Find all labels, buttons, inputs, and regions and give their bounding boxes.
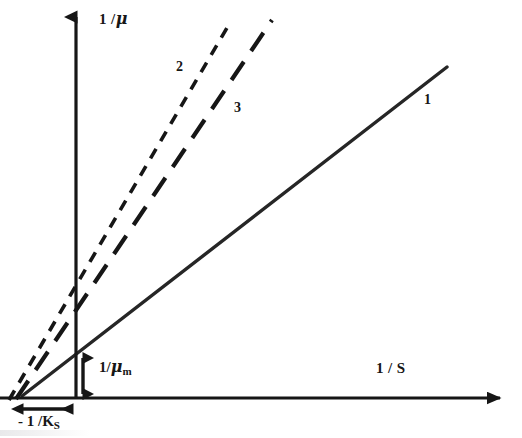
plot-canvas [0,0,522,438]
axes-group [0,17,500,398]
x-axis-label-text: 1 / S [376,360,406,376]
y-intercept-symbol: μ [111,357,123,376]
figure-root: 1 /μ 1 / S 2 3 1 1/μm - 1 /KS [0,0,522,438]
series-line-3 [16,20,272,399]
series-label-1: 1 [424,93,431,107]
y-intercept-label: 1/μm [99,359,132,377]
series-line-2 [9,21,231,400]
x-intercept-subscript: S [54,419,60,431]
x-intercept-label: - 1 /KS [18,414,60,431]
y-intercept-subscript: m [122,365,131,377]
x-intercept-symbol: K [42,413,54,429]
x-axis-label: 1 / S [376,361,406,376]
series-label-3: 3 [234,101,241,115]
series-label-2: 2 [176,60,183,74]
annotation-arrows [23,358,83,409]
y-axis-label: 1 /μ [99,11,128,27]
y-intercept-prefix: 1/ [99,359,111,375]
y-axis-label-symbol: μ [116,9,128,28]
series-line-1 [22,67,447,396]
x-intercept-prefix: - 1 / [18,413,42,429]
y-axis-label-text: 1 / [99,11,116,27]
